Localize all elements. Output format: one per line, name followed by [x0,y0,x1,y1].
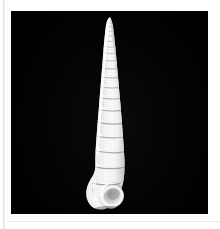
figure-plate [11,11,208,214]
document-page [0,0,220,229]
gastropod-shell-image [80,16,140,214]
page-rule-below-figure-soft [10,216,210,217]
page-rule-left-soft [4,0,5,229]
page-divider [6,221,220,222]
